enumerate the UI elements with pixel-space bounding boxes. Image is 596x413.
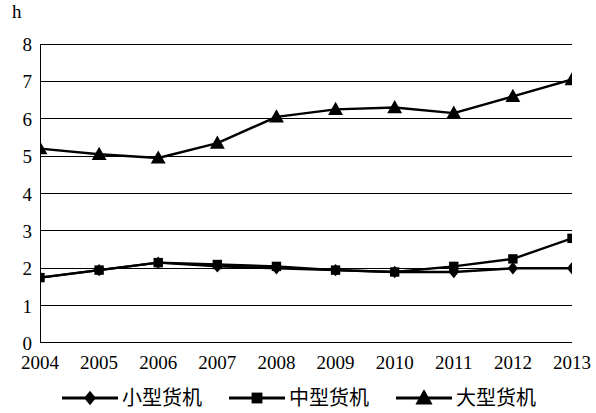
legend-item-diamond[interactable]: 小型货机: [61, 387, 202, 409]
y-axis-tick-labels: 012345678: [0, 44, 32, 343]
x-tick-label: 2009: [317, 352, 355, 374]
data-point-marker: [567, 262, 572, 274]
data-point-marker: [272, 262, 281, 271]
x-tick-label: 2012: [494, 352, 532, 374]
data-point-marker: [40, 273, 45, 282]
data-point-marker: [213, 260, 222, 269]
data-point-marker: [210, 135, 225, 148]
y-tick-label: 1: [6, 296, 32, 315]
x-tick-label: 2008: [257, 352, 295, 374]
legend-item-square[interactable]: 中型货机: [228, 387, 369, 409]
x-axis-tick-labels: 2004200520062007200820092010201120122013: [40, 352, 572, 376]
x-tick-label: 2004: [21, 352, 59, 374]
legend-marker-diamond-icon: [61, 388, 119, 408]
series-3: [40, 72, 572, 164]
data-point-marker: [565, 72, 572, 85]
y-tick-label: 5: [6, 147, 32, 166]
legend-label: 大型货机: [456, 387, 536, 409]
legend-marker-triangle-icon: [395, 388, 453, 408]
legend-label: 小型货机: [122, 387, 202, 409]
series-line: [40, 238, 572, 277]
data-point-marker: [508, 254, 517, 263]
y-tick-label: 4: [6, 184, 32, 203]
data-point-marker: [154, 258, 163, 267]
plot-area: [40, 44, 572, 343]
y-tick-label: 2: [6, 259, 32, 278]
line-chart: h 012345678 2004200520062007200820092010…: [0, 0, 596, 413]
y-tick-label: 3: [6, 221, 32, 240]
plot-svg: [40, 44, 572, 343]
x-tick-label: 2006: [139, 352, 177, 374]
x-tick-label: 2010: [376, 352, 414, 374]
series-line: [40, 263, 572, 278]
x-tick-label: 2005: [80, 352, 118, 374]
legend-label: 中型货机: [289, 387, 369, 409]
x-tick-label: 2011: [435, 352, 472, 374]
chart-legend: 小型货机中型货机大型货机: [0, 383, 596, 413]
series-2: [40, 234, 572, 283]
x-tick-label: 2007: [198, 352, 236, 374]
data-point-marker: [449, 262, 458, 271]
y-tick-label: 8: [6, 35, 32, 54]
x-tick-label: 2013: [553, 352, 591, 374]
y-tick-label: 0: [6, 334, 32, 353]
data-point-marker: [567, 234, 572, 243]
y-axis-unit-label: h: [12, 2, 22, 22]
data-point-marker: [508, 262, 518, 274]
data-point-marker: [94, 265, 103, 274]
data-point-marker: [390, 267, 399, 276]
legend-marker-square-icon: [228, 388, 286, 408]
data-point-marker: [40, 141, 47, 154]
y-tick-label: 7: [6, 72, 32, 91]
y-tick-label: 6: [6, 109, 32, 128]
legend-item-triangle[interactable]: 大型货机: [395, 387, 536, 409]
data-point-marker: [331, 265, 340, 274]
